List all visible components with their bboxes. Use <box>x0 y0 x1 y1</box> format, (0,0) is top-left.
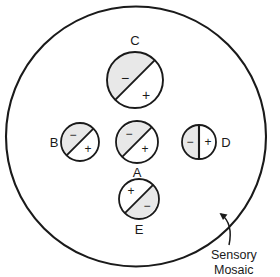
unit-C-label: C <box>130 33 139 48</box>
sensory-mosaic-svg: − + C − + B − + A <box>0 0 280 277</box>
unit-C-negative-sign: − <box>121 70 129 86</box>
unit-B-negative-sign: − <box>69 128 76 142</box>
unit-A-label: A <box>133 165 142 180</box>
unit-B-positive-sign: + <box>84 142 91 156</box>
unit-E-negative-sign: − <box>143 199 150 213</box>
unit-A-negative-sign: − <box>125 127 132 141</box>
figure-canvas: − + C − + B − + A <box>0 0 280 277</box>
annotation-line-1: Sensory <box>211 248 258 262</box>
unit-D-label: D <box>221 135 230 150</box>
unit-C-positive-sign: + <box>142 87 150 103</box>
unit-A-positive-sign: + <box>141 142 148 156</box>
unit-E-positive-sign: + <box>127 184 134 198</box>
sensory-mosaic-annotation: Sensory Mosaic <box>211 248 258 277</box>
unit-B-label: B <box>50 135 59 150</box>
annotation-line-2: Mosaic <box>214 263 254 277</box>
unit-E-label: E <box>135 222 144 237</box>
unit-D-negative-sign: − <box>186 135 193 149</box>
unit-D-positive-sign: + <box>204 135 211 149</box>
